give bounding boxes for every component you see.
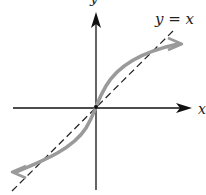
reference-line-label: y = x: [154, 10, 195, 28]
x-axis: [13, 103, 192, 113]
graph: y x y = x: [0, 0, 206, 195]
reference-line-y-equals-x: [12, 31, 173, 191]
origin-point: [94, 105, 98, 109]
x-axis-label: x: [198, 101, 206, 117]
y-axis-label: y: [89, 0, 99, 6]
